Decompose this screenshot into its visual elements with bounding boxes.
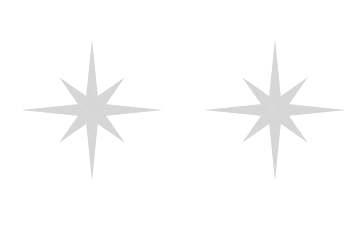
star-left bbox=[22, 40, 162, 180]
star-group bbox=[22, 40, 345, 180]
stars-svg bbox=[0, 0, 362, 225]
star-right bbox=[205, 40, 345, 180]
image-canvas bbox=[0, 0, 362, 225]
star-layer bbox=[0, 0, 362, 225]
